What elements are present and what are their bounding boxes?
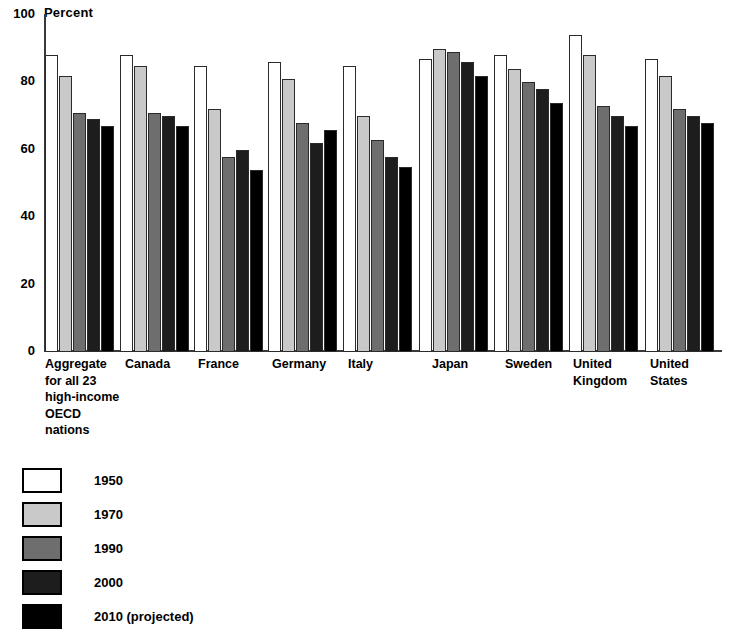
- chart-legend: 19501970199020002010 (projected): [0, 462, 730, 639]
- bar-group: [494, 15, 564, 352]
- bar: [236, 150, 249, 352]
- bar: [701, 123, 714, 352]
- bar-group: [343, 15, 413, 352]
- bar: [494, 55, 507, 352]
- legend-item: 2000: [22, 570, 123, 595]
- legend-swatch-1950: [22, 468, 62, 493]
- bar: [611, 116, 624, 352]
- bar: [73, 113, 86, 352]
- bar: [399, 167, 412, 352]
- legend-label: 2010 (projected): [94, 609, 194, 624]
- bar: [222, 157, 235, 352]
- bar: [148, 113, 161, 352]
- bar: [461, 62, 474, 352]
- bar: [597, 106, 610, 352]
- bar-group: [419, 15, 489, 352]
- bar: [447, 52, 460, 352]
- x-axis-category-labels: Aggregate for all 23 high-income OECD na…: [0, 356, 730, 456]
- bar-group: [120, 15, 190, 352]
- legend-item: 1970: [22, 502, 123, 527]
- legend-label: 1970: [94, 507, 123, 522]
- bar-group: [45, 15, 115, 352]
- legend-swatch-2000: [22, 570, 62, 595]
- bar-group: [569, 15, 639, 352]
- legend-swatch-2010: [22, 604, 62, 629]
- bar: [625, 126, 638, 352]
- bar: [282, 79, 295, 352]
- category-label: Germany: [272, 356, 326, 373]
- bar: [569, 35, 582, 352]
- bar: [101, 126, 114, 352]
- bar: [162, 116, 175, 352]
- bar: [296, 123, 309, 352]
- bar: [385, 157, 398, 352]
- bar: [550, 103, 563, 352]
- legend-label: 2000: [94, 575, 123, 590]
- bar: [45, 55, 58, 352]
- bar-group: [645, 15, 715, 352]
- legend-item: 1950: [22, 468, 123, 493]
- legend-label: 1950: [94, 473, 123, 488]
- bar: [522, 82, 535, 352]
- legend-item: 1990: [22, 536, 123, 561]
- bar: [673, 109, 686, 352]
- bar: [659, 76, 672, 352]
- bar-chart: Percent 020406080100 Aggregate for all 2…: [0, 0, 730, 460]
- category-label: United Kingdom: [573, 356, 627, 389]
- bar: [645, 59, 658, 352]
- bar: [419, 59, 432, 352]
- bar: [208, 109, 221, 352]
- bar: [583, 55, 596, 352]
- bar: [687, 116, 700, 352]
- bar: [250, 170, 263, 352]
- category-label: France: [198, 356, 239, 373]
- bar: [371, 140, 384, 352]
- category-label: Italy: [348, 356, 373, 373]
- bar: [475, 76, 488, 352]
- bar: [310, 143, 323, 352]
- plot-area: [0, 0, 730, 352]
- category-label: Japan: [432, 356, 468, 373]
- bar-group: [268, 15, 338, 352]
- bar: [357, 116, 370, 352]
- bar: [508, 69, 521, 352]
- bar: [134, 66, 147, 352]
- bar: [59, 76, 72, 352]
- bar: [176, 126, 189, 352]
- category-label: Canada: [125, 356, 170, 373]
- bar: [324, 130, 337, 352]
- bar-group: [194, 15, 264, 352]
- legend-item: 2010 (projected): [22, 604, 194, 629]
- bar: [343, 66, 356, 352]
- bar: [194, 66, 207, 352]
- legend-swatch-1990: [22, 536, 62, 561]
- category-label: Sweden: [505, 356, 552, 373]
- bar: [87, 119, 100, 352]
- bar: [433, 49, 446, 352]
- category-label: Aggregate for all 23 high-income OECD na…: [45, 356, 119, 439]
- bar: [120, 55, 133, 352]
- bar: [268, 62, 281, 352]
- legend-label: 1990: [94, 541, 123, 556]
- legend-swatch-1970: [22, 502, 62, 527]
- bar: [536, 89, 549, 352]
- category-label: United States: [650, 356, 689, 389]
